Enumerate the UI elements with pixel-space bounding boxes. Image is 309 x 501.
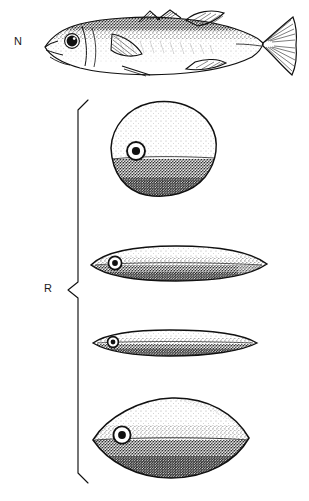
fish-eye (65, 34, 80, 49)
round-group-bracket (68, 100, 88, 483)
figure-panel: N R (0, 0, 309, 501)
specimen-round-form-3 (88, 325, 268, 361)
illustration-canvas (0, 0, 309, 501)
round-form-1-eye (127, 142, 145, 160)
specimen-round-form-2 (85, 240, 275, 290)
specimen-normal-fish (38, 10, 296, 84)
round-form-4-eye (113, 426, 130, 443)
round-form-3-eye (108, 337, 119, 348)
specimen-round-form-1 (100, 95, 230, 209)
fish-caudal-fin (263, 17, 296, 75)
round-form-2-eye (108, 256, 121, 269)
specimen-round-form-4 (88, 392, 258, 486)
